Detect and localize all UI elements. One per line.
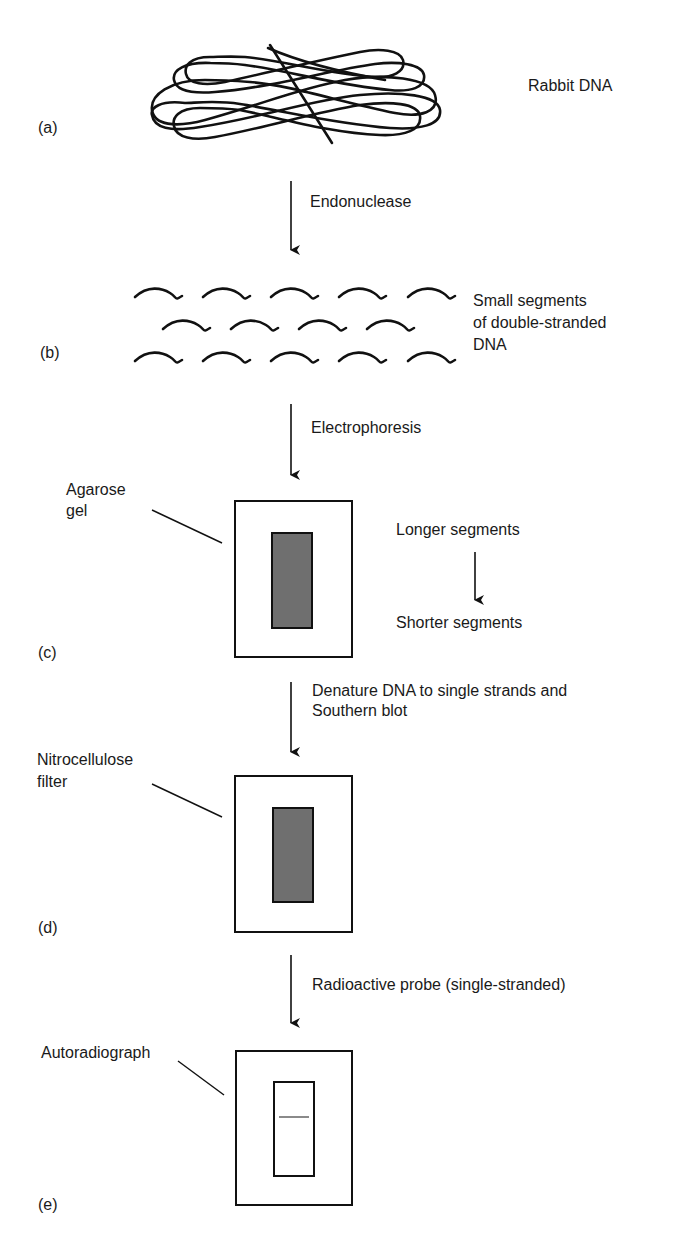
shorter-segments-label: Shorter segments (396, 613, 522, 632)
panel-letter-a: (a) (38, 118, 58, 137)
tangled-dna-icon (152, 45, 440, 143)
nitrocellulose-filter (234, 775, 353, 933)
panel-letter-b: (b) (40, 343, 60, 362)
filter-leader-line (152, 784, 222, 817)
agarose-leader-line (152, 510, 222, 543)
longer-segments-label: Longer segments (396, 520, 520, 539)
autoradiograph-callout: Autoradiograph (41, 1043, 150, 1062)
step-denature-label-line-1: Denature DNA to single strands and (312, 681, 567, 700)
dna-fragments-icon (135, 289, 455, 363)
agarose-callout-line-1: Agarose (66, 480, 126, 499)
step-electrophoresis-label: Electrophoresis (311, 418, 421, 437)
filter-lane-smear (272, 807, 314, 903)
panel-letter-d: (d) (38, 918, 58, 937)
autoradiograph-lane (273, 1081, 315, 1177)
step-radioactive-probe-label: Radioactive probe (single-stranded) (312, 975, 565, 994)
hybridized-band (279, 1116, 309, 1118)
filter-callout-line-1: Nitrocellulose (37, 750, 133, 769)
fragments-label-line-3: DNA (473, 335, 507, 354)
autoradiograph-leader-line (178, 1061, 224, 1095)
step-denature-label-line-2: Southern blot (312, 701, 407, 720)
fragments-label-line-2: of double-stranded (473, 313, 606, 332)
autoradiograph-film (235, 1050, 353, 1206)
southern-blot-figure: Rabbit DNA (a) Endonuclease Small segmen… (0, 0, 685, 1236)
gel-lane-smear (271, 532, 313, 629)
filter-callout-line-2: filter (37, 772, 67, 791)
agarose-callout-line-2: gel (66, 501, 87, 520)
rabbit-dna-label: Rabbit DNA (528, 76, 612, 95)
agarose-gel (234, 500, 353, 658)
panel-letter-c: (c) (38, 643, 57, 662)
fragments-label-line-1: Small segments (473, 291, 587, 310)
step-endonuclease-label: Endonuclease (310, 192, 411, 211)
panel-letter-e: (e) (38, 1195, 58, 1214)
